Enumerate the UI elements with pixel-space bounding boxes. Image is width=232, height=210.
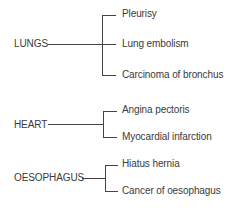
bracket-heart bbox=[103, 111, 104, 138]
leaf-pleurisy: Pleurisy bbox=[122, 8, 157, 20]
connector-heart bbox=[48, 124, 104, 125]
branch-lung-embolism bbox=[102, 44, 116, 45]
leaf-angina-pectoris: Angina pectoris bbox=[122, 104, 189, 116]
group-label-lungs: LUNGS bbox=[14, 38, 48, 50]
branch-angina-pectoris bbox=[103, 111, 117, 112]
leaf-cancer-of-oesophagus: Cancer of oesophagus bbox=[122, 185, 221, 197]
branch-hiatus-hernia bbox=[105, 165, 118, 166]
branch-pleurisy bbox=[102, 15, 116, 16]
branch-myocardial-infarction bbox=[103, 137, 117, 138]
group-label-heart: HEART bbox=[14, 119, 47, 131]
bracket-oesophagus bbox=[105, 165, 106, 192]
branch-cancer-of-oesophagus bbox=[105, 191, 118, 192]
leaf-lung-embolism: Lung embolism bbox=[122, 38, 189, 50]
leaf-myocardial-infarction: Myocardial infarction bbox=[122, 131, 212, 143]
group-label-oesophagus: OESOPHAGUS bbox=[14, 172, 84, 184]
leaf-hiatus-hernia: Hiatus hernia bbox=[122, 158, 180, 170]
connector-oesophagus bbox=[82, 178, 106, 179]
bracket-lungs bbox=[102, 15, 103, 76]
branch-carcinoma-of-bronchus bbox=[102, 75, 116, 76]
connector-lungs bbox=[48, 44, 103, 45]
leaf-carcinoma-of-bronchus: Carcinoma of bronchus bbox=[122, 69, 223, 81]
